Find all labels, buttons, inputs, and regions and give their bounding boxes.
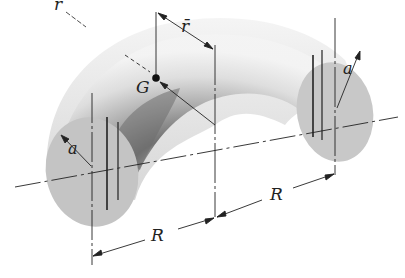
label-r: r (54, 0, 63, 14)
label-R-left: R (150, 225, 164, 245)
label-R-right: R (269, 184, 283, 204)
label-a-right: a (343, 59, 353, 78)
half-torus-diagram: r r̄ G a a R R (0, 0, 405, 278)
label-G: G (136, 77, 150, 97)
centroid-point (152, 74, 160, 82)
label-a-left: a (68, 139, 78, 158)
label-r-bar: r̄ (181, 16, 190, 36)
r-leader (66, 12, 86, 27)
